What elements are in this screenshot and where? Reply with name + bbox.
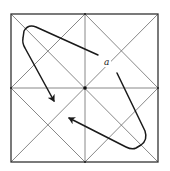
folding-diagram: a <box>0 0 170 171</box>
center-dot <box>83 86 87 90</box>
right-midpoint-dot <box>157 87 159 89</box>
label-a: a <box>104 57 109 67</box>
left-midpoint-dot <box>10 87 12 89</box>
top-midpoint-dot <box>84 13 86 15</box>
bottom-midpoint-dot <box>84 161 86 163</box>
